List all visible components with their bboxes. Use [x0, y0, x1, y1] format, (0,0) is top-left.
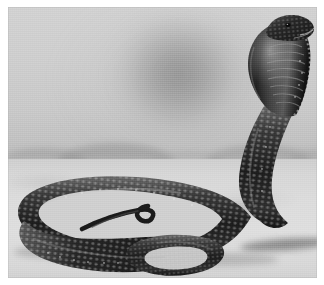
- eye: [285, 23, 290, 27]
- neck-scales: [239, 103, 294, 228]
- cobra: [8, 7, 317, 278]
- screenshot-root: Cobra: [0, 0, 324, 285]
- photograph: Cobra: [8, 7, 317, 278]
